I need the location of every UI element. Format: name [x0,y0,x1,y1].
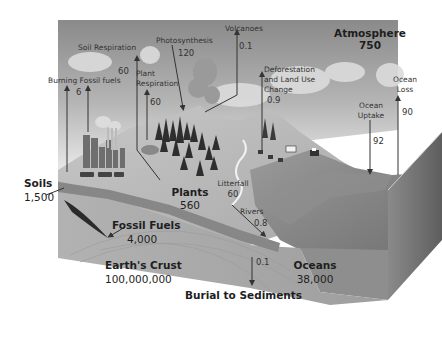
volcanoes-value: 0.1 [239,42,253,51]
carbon-cycle-diagram: Atmosphere 750 Soil Respiration 60 Photo… [0,0,442,340]
ocean-loss-value: 90 [402,108,413,117]
fossil-fuels-value: 4,000 [127,234,157,245]
cars [80,172,124,177]
burning-fossil-fuels-value: 6 [76,88,81,97]
ocean-loss-label-1: Ocean [390,76,420,84]
plant-respiration-value: 60 [150,98,161,107]
deforestation-label-2: and Land Use [264,76,315,84]
photosynthesis-label: Photosynthesis [156,37,213,45]
burning-fossil-fuels-label: Burning Fossil fuels [48,77,121,85]
oceans-label: Oceans [290,260,340,271]
earths-crust-value: 100,000,000 [105,274,172,285]
soils-label: Soils [24,178,52,189]
atmosphere-value: 750 [330,40,410,51]
rivers-label: Rivers [240,208,263,216]
ocean-uptake-label-2: Uptake [356,112,386,120]
plants-value: 560 [165,200,215,211]
ocean-uptake-value: 92 [373,137,384,146]
atmosphere-label: Atmosphere [330,28,410,39]
ocean-block-side [388,132,442,300]
volcanoes-label: Volcanoes [225,25,263,33]
deforestation-label-3: Change [264,86,293,94]
earths-crust-label: Earth's Crust [105,260,182,271]
shrub [141,145,159,155]
oceans-value: 38,000 [290,274,340,285]
plants-label: Plants [165,187,215,198]
rivers-value: 0.8 [254,219,268,228]
burial-value: 0.1 [256,258,270,267]
deforestation-value: 0.9 [267,96,281,105]
soils-value: 1,500 [24,192,54,203]
soil-respiration-label: Soil Respiration [78,44,136,52]
ocean-loss-label-2: Loss [390,86,420,94]
photosynthesis-value: 120 [178,49,194,58]
litterfall-value: 60 [213,190,253,199]
deforestation-label-1: Deforestation [264,66,315,74]
burial-label: Burial to Sediments [185,290,302,301]
litterfall-label: Litterfall [213,180,253,188]
plant-respiration-label-1: Plant [136,70,155,78]
plant-respiration-label-2: Respiration [136,80,178,88]
ocean-uptake-label-1: Ocean [356,102,386,110]
fossil-fuels-label: Fossil Fuels [112,220,180,231]
soil-respiration-value: 60 [118,67,129,76]
